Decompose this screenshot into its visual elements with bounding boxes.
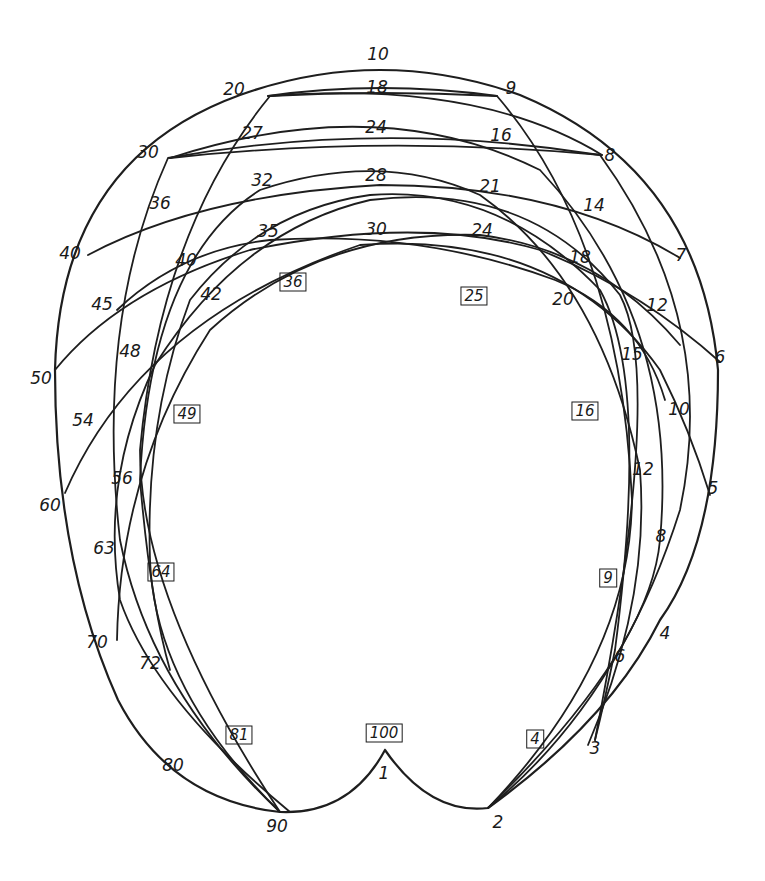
outer-number-label: 4 bbox=[660, 625, 671, 642]
square-number-label: 9 bbox=[599, 569, 617, 588]
product-label: 6 bbox=[615, 648, 626, 665]
product-label: 24 bbox=[471, 222, 493, 239]
product-label: 12 bbox=[646, 297, 668, 314]
product-label: 36 bbox=[149, 195, 171, 212]
product-label: 18 bbox=[569, 249, 591, 266]
product-label: 28 bbox=[365, 167, 387, 184]
product-label: 42 bbox=[200, 286, 222, 303]
arc-curve bbox=[140, 171, 641, 745]
product-label: 15 bbox=[621, 346, 643, 363]
outer-number-label: 20 bbox=[223, 81, 245, 98]
outer-number-label: 50 bbox=[30, 370, 52, 387]
outer-number-label: 90 bbox=[266, 818, 288, 835]
product-label: 18 bbox=[366, 79, 388, 96]
product-label: 56 bbox=[111, 470, 133, 487]
outer-number-label: 7 bbox=[676, 247, 687, 264]
arc-curve bbox=[65, 244, 710, 495]
outer-number-label: 9 bbox=[506, 80, 517, 97]
product-label: 32 bbox=[251, 172, 273, 189]
square-number-label: 25 bbox=[460, 287, 487, 306]
outer-number-label: 40 bbox=[59, 245, 81, 262]
outer-number-label: 80 bbox=[162, 757, 184, 774]
product-label: 54 bbox=[72, 412, 94, 429]
product-label: 12 bbox=[632, 461, 654, 478]
outer-number-label: 1 bbox=[379, 765, 390, 782]
outer-number-label: 60 bbox=[39, 497, 61, 514]
square-number-label: 81 bbox=[225, 726, 252, 745]
outer-number-label: 6 bbox=[715, 349, 726, 366]
arc-curve bbox=[170, 127, 663, 808]
outer-number-label: 8 bbox=[605, 147, 616, 164]
product-label: 24 bbox=[365, 119, 387, 136]
product-label: 27 bbox=[241, 125, 263, 142]
product-label: 8 bbox=[656, 528, 667, 545]
outer-number-label: 5 bbox=[708, 480, 719, 497]
square-number-label: 49 bbox=[173, 405, 200, 424]
product-label: 72 bbox=[139, 655, 161, 672]
product-label: 63 bbox=[93, 540, 115, 557]
product-label: 35 bbox=[257, 223, 279, 240]
arc-curves bbox=[55, 70, 720, 812]
product-label: 20 bbox=[552, 291, 574, 308]
product-label: 48 bbox=[119, 343, 141, 360]
arc-curve bbox=[268, 88, 632, 808]
product-label: 30 bbox=[365, 221, 387, 238]
product-label: 16 bbox=[490, 127, 512, 144]
outer-number-label: 10 bbox=[367, 46, 389, 63]
product-label: 14 bbox=[583, 197, 605, 214]
outer-number-label: 3 bbox=[590, 740, 601, 757]
product-label: 40 bbox=[175, 252, 197, 269]
product-label: 45 bbox=[91, 296, 113, 313]
outer-number-label: 30 bbox=[137, 144, 159, 161]
product-label: 21 bbox=[479, 178, 501, 195]
square-number-label: 100 bbox=[366, 724, 403, 743]
square-number-label: 36 bbox=[279, 273, 306, 292]
product-label: 10 bbox=[668, 401, 690, 418]
square-number-label: 16 bbox=[571, 402, 598, 421]
outer-number-label: 70 bbox=[86, 634, 108, 651]
square-number-label: 4 bbox=[526, 730, 544, 749]
outer-number-label: 2 bbox=[493, 814, 504, 831]
square-number-label: 64 bbox=[147, 563, 174, 582]
